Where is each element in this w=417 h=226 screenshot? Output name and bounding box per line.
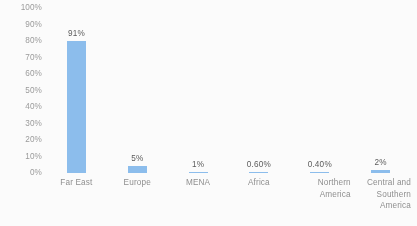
y-axis-tick-label: 20%	[8, 136, 42, 144]
bar-value-label: 5%	[131, 154, 143, 163]
y-axis-tick-label: 90%	[8, 21, 42, 29]
bar[interactable]	[249, 172, 268, 173]
bar-value-label: 0.60%	[247, 160, 271, 169]
x-axis-category-label: Central andSouthernAmerica	[349, 177, 411, 212]
bar[interactable]	[371, 170, 390, 173]
plot-area: 91%5%1%0.60%0.40%2%	[46, 12, 411, 173]
bar[interactable]	[67, 41, 86, 173]
bar-column[interactable]: 1%	[189, 12, 208, 173]
x-axis-category-label: MENA	[167, 177, 229, 189]
x-axis-category-label: Far East	[45, 177, 107, 189]
x-axis-category-label-line: Southern	[349, 189, 411, 201]
bar-column[interactable]: 5%	[128, 12, 147, 173]
y-axis-tick-label: 50%	[8, 87, 42, 95]
x-axis-category-label-line: America	[349, 200, 411, 212]
x-axis-category-label-line: Europe	[106, 177, 168, 189]
bar[interactable]	[128, 166, 147, 173]
x-axis-category-label-line: Far East	[45, 177, 107, 189]
x-axis-category-label-line: MENA	[167, 177, 229, 189]
x-axis-category-label-line: Central and	[349, 177, 411, 189]
y-axis-tick-label: 60%	[8, 70, 42, 78]
y-axis-tick-label: 70%	[8, 54, 42, 62]
bar-chart: 100%90%80%70%60%50%40%30%20%10%0% 91%5%1…	[0, 0, 417, 226]
x-axis-category-label: Europe	[106, 177, 168, 189]
x-axis-category-label-line: Africa	[228, 177, 290, 189]
bar[interactable]	[310, 172, 329, 173]
bar-column[interactable]: 91%	[67, 12, 86, 173]
y-axis-tick-label: 100%	[8, 4, 42, 12]
x-axis-category-label-line: Northern	[289, 177, 351, 189]
y-axis-tick-label: 30%	[8, 120, 42, 128]
bar-column[interactable]: 2%	[371, 12, 390, 173]
bar[interactable]	[189, 172, 208, 173]
x-axis-category-label: NorthernAmerica	[289, 177, 351, 200]
y-axis: 100%90%80%70%60%50%40%30%20%10%0%	[8, 8, 42, 173]
y-axis-tick-label: 10%	[8, 153, 42, 161]
bar-column[interactable]: 0.40%	[310, 12, 329, 173]
x-axis-category-labels: Far EastEuropeMENAAfricaNorthernAmericaC…	[46, 177, 411, 223]
bar-column[interactable]: 0.60%	[249, 12, 268, 173]
bar-value-label: 91%	[68, 29, 85, 38]
bar-value-label: 1%	[192, 160, 204, 169]
y-axis-tick-label: 80%	[8, 37, 42, 45]
y-axis-tick-label: 40%	[8, 103, 42, 111]
x-axis-category-label-line: America	[289, 189, 351, 201]
bar-value-label: 0.40%	[308, 160, 332, 169]
y-axis-tick-label: 0%	[8, 169, 42, 177]
x-axis-category-label: Africa	[228, 177, 290, 189]
bar-value-label: 2%	[374, 158, 386, 167]
